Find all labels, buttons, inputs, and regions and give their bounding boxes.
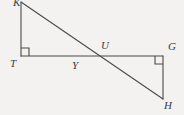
right-angle-at-T (21, 48, 29, 56)
geometry-figure: K T Y U G H (0, 0, 184, 115)
vertex-label-U: U (101, 40, 109, 51)
vertex-label-G: G (168, 41, 176, 52)
vertex-label-K: K (13, 0, 20, 8)
vertex-label-Y: Y (72, 60, 78, 71)
figure-canvas (0, 0, 184, 115)
right-angle-at-G (155, 56, 163, 64)
vertex-label-H: H (164, 100, 172, 111)
segment-K-H (21, 2, 163, 99)
vertex-label-T: T (10, 58, 16, 69)
